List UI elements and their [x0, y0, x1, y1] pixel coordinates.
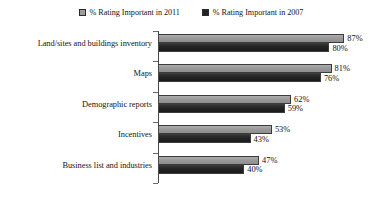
- bar-group: 81% 76%: [159, 61, 382, 91]
- bar-value-2011: 53%: [275, 125, 290, 134]
- bar-2011: [159, 34, 344, 43]
- category-label: Land/sites and buildings inventory: [0, 38, 152, 49]
- legend-entry-2011: % Rating Important in 2011: [79, 8, 180, 17]
- plot-area: Land/sites and buildings inventory 87% 8…: [0, 28, 382, 200]
- bar-value-2011: 62%: [294, 95, 309, 104]
- axis-tick: [153, 183, 158, 184]
- bar-group: 47% 40%: [159, 153, 382, 183]
- chart-legend: % Rating Important in 2011 % Rating Impo…: [0, 8, 382, 17]
- bar-group: 62% 59%: [159, 92, 382, 122]
- bar-2007: [159, 165, 244, 174]
- bar-2007: [159, 73, 321, 82]
- bar-2011: [159, 64, 332, 73]
- bar-group: 53% 43%: [159, 122, 382, 152]
- bar-value-2007: 40%: [247, 165, 262, 174]
- bar-value-2011: 47%: [262, 156, 277, 165]
- legend-swatch-black-icon: [202, 9, 209, 16]
- bar-2011: [159, 95, 291, 104]
- category-label: Maps: [0, 68, 152, 79]
- category-label: Demographic reports: [0, 99, 152, 110]
- bar-value-2007: 59%: [288, 104, 303, 113]
- bar-value-2007: 43%: [254, 135, 269, 144]
- bar-value-2007: 80%: [332, 44, 347, 53]
- category-group: Business list and industries 47% 40%: [0, 153, 382, 183]
- bar-value-2011: 81%: [335, 64, 350, 73]
- category-label: Incentives: [0, 129, 152, 140]
- category-group: Land/sites and buildings inventory 87% 8…: [0, 31, 382, 61]
- bar-2007: [159, 104, 285, 113]
- legend-label-2011: % Rating Important in 2011: [90, 8, 180, 17]
- category-group: Incentives 53% 43%: [0, 122, 382, 152]
- category-group: Demographic reports 62% 59%: [0, 92, 382, 122]
- category-label: Business list and industries: [0, 160, 152, 171]
- bar-value-2007: 76%: [324, 74, 339, 83]
- bar-value-2011: 87%: [347, 34, 362, 43]
- legend-swatch-gray-icon: [79, 9, 86, 16]
- legend-label-2007: % Rating Important in 2007: [213, 8, 304, 17]
- bar-2011: [159, 125, 272, 134]
- bar-chart: % Rating Important in 2011 % Rating Impo…: [0, 0, 382, 206]
- bar-group: 87% 80%: [159, 31, 382, 61]
- legend-entry-2007: % Rating Important in 2007: [202, 8, 304, 17]
- bar-2011: [159, 156, 259, 165]
- category-group: Maps 81% 76%: [0, 61, 382, 91]
- bar-2007: [159, 43, 329, 52]
- bar-2007: [159, 134, 251, 143]
